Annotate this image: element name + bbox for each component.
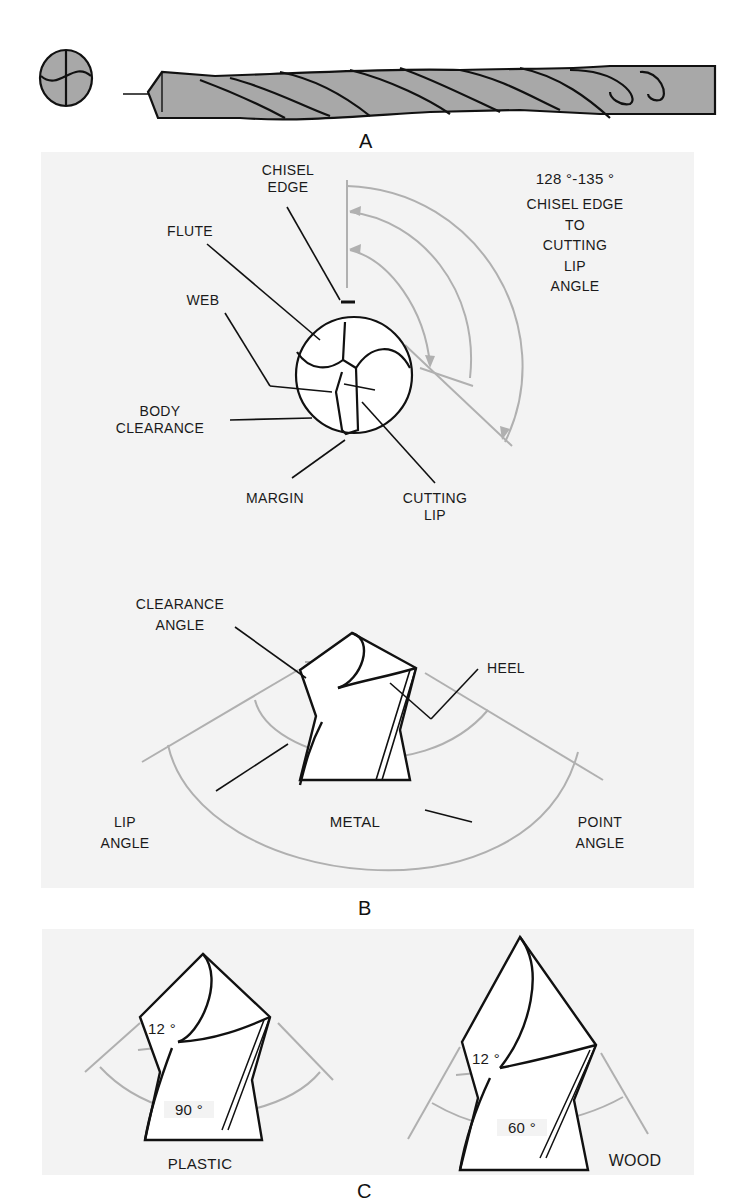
label-plastic-clearance: 12 ° (142, 1020, 182, 1037)
label-plastic-point: 90 ° (164, 1101, 214, 1118)
label-wood-clearance: 12 ° (466, 1050, 506, 1067)
label-plastic: PLASTIC (150, 1155, 250, 1172)
label-wood-point: 60 ° (497, 1119, 547, 1136)
drill-point-by-material-figure (0, 0, 731, 1201)
label-wood: WOOD (600, 1152, 670, 1169)
figure-label-c: C (357, 1181, 371, 1201)
